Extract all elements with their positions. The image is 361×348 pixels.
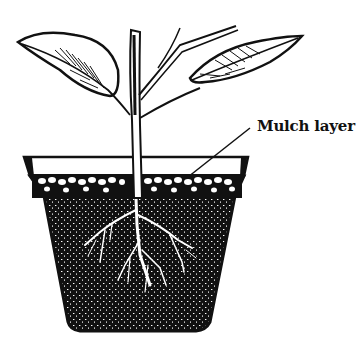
leaf-left (18, 33, 130, 115)
mulch-layer-label: Mulch layer (257, 117, 355, 135)
plant-diagram: Mulch layer (0, 0, 361, 348)
plant-illustration (0, 0, 361, 348)
